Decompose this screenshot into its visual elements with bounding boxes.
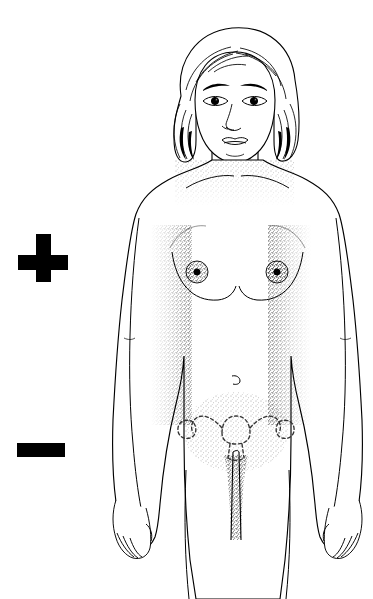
left-nipple xyxy=(186,261,208,283)
right-eye xyxy=(242,97,267,106)
female-figure-illustration xyxy=(0,0,373,599)
minus-horizontal-bar xyxy=(17,443,65,457)
right-nipple xyxy=(266,261,288,283)
plus-horizontal-bar xyxy=(18,255,68,270)
minus-symbol: − xyxy=(17,443,65,457)
plus-symbol: + xyxy=(18,234,68,282)
illustration-page: Female Anatomical Figure — Hormone Feedb… xyxy=(0,0,373,599)
left-eye xyxy=(203,97,228,106)
